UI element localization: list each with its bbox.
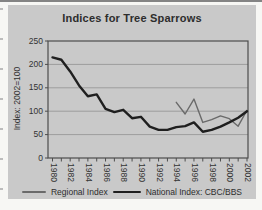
legend-line-national-index (113, 191, 141, 193)
legend-line-regional-index (22, 191, 46, 192)
y-tick-label-100: 100 (13, 107, 43, 116)
legend: Regional Index National Index: CBC/BBS (8, 185, 256, 199)
chart-panel: Indices for Tree Sparrows Index: 2002=10… (8, 5, 256, 199)
plot-area (8, 5, 256, 199)
y-tick-label-0: 0 (13, 154, 43, 163)
legend-label-regional-index: Regional Index (51, 187, 108, 197)
series-line-regional-index (176, 99, 247, 126)
plot-frame (48, 41, 248, 158)
scanned-page-top-edge (0, 0, 262, 2)
y-tick-label-150: 150 (13, 83, 43, 92)
scan-artifact-marks (0, 8, 3, 200)
legend-label-national-index: National Index: CBC/BBS (146, 187, 242, 197)
y-tick-label-200: 200 (13, 60, 43, 69)
y-tick-label-250: 250 (13, 37, 43, 46)
y-tick-label-50: 50 (13, 130, 43, 139)
series-line-national-index-cbc-bbs (53, 57, 248, 131)
